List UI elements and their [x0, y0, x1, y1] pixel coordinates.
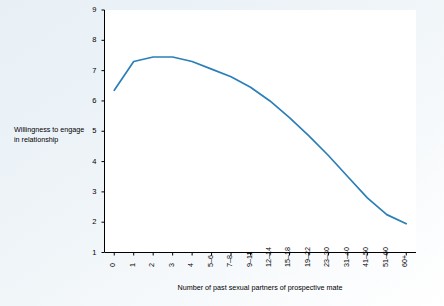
chart-container: Willingness to engage in relationship Nu… [0, 0, 444, 306]
y-tick-label: 3 [83, 187, 97, 196]
x-tick-label: 31–40 [342, 247, 351, 267]
y-tick-label: 6 [83, 96, 97, 105]
x-tick-label: 51–60 [381, 247, 390, 267]
x-tick-label: 19–22 [303, 247, 312, 267]
x-tick-label: 2 [147, 263, 156, 267]
y-axis-label-line-2: in relationship [14, 135, 100, 145]
x-tick-label: 12–14 [264, 247, 273, 267]
y-tick-label: 7 [83, 66, 97, 75]
y-tick-label: 8 [83, 35, 97, 44]
x-axis-label: Number of past sexual partners of prospe… [104, 283, 416, 292]
data-series-line [114, 57, 406, 224]
x-tick-label: 60+ [400, 254, 409, 266]
x-tick-label: 1 [128, 263, 137, 267]
axes [105, 10, 417, 253]
y-tick-label: 9 [83, 5, 97, 14]
x-tick-label: 41–50 [361, 247, 370, 267]
line-chart-svg [0, 0, 444, 306]
x-tick-label: 3 [167, 263, 176, 267]
x-tick-label: 5–6 [206, 255, 215, 267]
x-tick-label: 15–18 [283, 247, 292, 267]
x-tick-label: 0 [108, 263, 117, 267]
y-tick-label: 4 [83, 157, 97, 166]
x-tick-label: 9–11 [245, 251, 254, 266]
y-tick-label: 5 [83, 126, 97, 135]
y-tick-label: 1 [83, 248, 97, 257]
x-tick-label: 7–8 [225, 255, 234, 267]
x-tick-label: 4 [186, 263, 195, 267]
y-tick-label: 2 [83, 217, 97, 226]
x-tick-label: 23–30 [322, 247, 331, 267]
